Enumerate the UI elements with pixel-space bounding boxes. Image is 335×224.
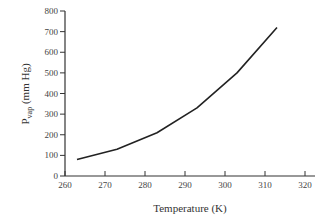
y-tick-label: 800 [45,6,59,16]
x-tick-label: 280 [138,180,152,190]
y-tick-label: 500 [45,68,59,78]
data-line [77,28,277,160]
y-tick-label: 400 [45,89,59,99]
y-tick-label: 100 [45,150,59,160]
y-tick-label: 0 [54,171,59,181]
y-axis-title: Pvap (mm Hg) [19,63,34,124]
x-tick-label: 310 [258,180,272,190]
x-tick-label: 260 [58,180,72,190]
x-axis-title: Temperature (K) [153,202,227,215]
x-tick-label: 320 [298,180,312,190]
x-tick-label: 300 [218,180,232,190]
y-tick-label: 300 [45,109,59,119]
x-tick-label: 290 [178,180,192,190]
axes: 2602702802903003103200100200300400500600… [45,6,316,190]
vapor-pressure-chart: 2602702802903003103200100200300400500600… [0,0,335,224]
y-tick-label: 200 [45,130,59,140]
x-tick-label: 270 [98,180,112,190]
plot-area [77,28,277,160]
y-tick-label: 700 [45,27,59,37]
y-tick-label: 600 [45,47,59,57]
